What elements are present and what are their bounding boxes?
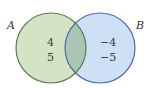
set-b-label: B [135,19,144,32]
venn-diagram: A B 4 5 −4 −5 [0,0,151,88]
set-a-element: 4 [47,36,54,49]
set-b-element: −5 [100,51,116,64]
set-a-label: A [6,19,15,32]
set-a-element: 5 [47,51,54,64]
set-b-element: −4 [100,36,116,49]
